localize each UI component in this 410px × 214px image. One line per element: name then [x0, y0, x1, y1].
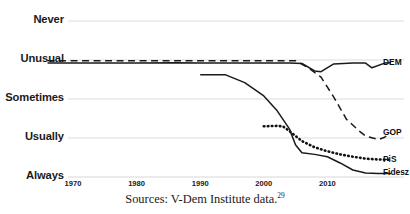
- gridlines-group: [68, 21, 404, 177]
- x-tick-label-1990: 1990: [180, 179, 220, 188]
- series-line-gop: [48, 61, 391, 140]
- caption-text: Sources: V-Dem Institute data.: [125, 192, 277, 206]
- caption-note-marker: 29: [277, 191, 284, 200]
- series-label-gop: GOP: [383, 127, 402, 137]
- series-label-pis: PiS: [383, 154, 397, 164]
- series-line-pis: [264, 126, 391, 160]
- series-label-dem: DEM: [383, 57, 402, 67]
- x-tick-label-2010: 2010: [307, 179, 347, 188]
- y-tick-label-sometimes: Sometimes: [5, 91, 64, 103]
- series-line-fidesz: [200, 75, 391, 174]
- chart-figure: NeverUnusualSometimesUsuallyAlways 19701…: [0, 0, 410, 214]
- x-tick-label-1970: 1970: [53, 179, 93, 188]
- y-tick-label-usually: Usually: [25, 130, 64, 142]
- y-tick-label-never: Never: [33, 13, 64, 25]
- x-tick-label-1980: 1980: [117, 179, 157, 188]
- figure-caption: Sources: V-Dem Institute data.29: [0, 192, 410, 207]
- series-group: [48, 61, 391, 174]
- series-line-dem: [48, 63, 391, 72]
- series-label-fidesz: Fidesz: [383, 167, 409, 177]
- y-tick-label-unusual: Unusual: [21, 52, 64, 64]
- x-tick-label-2000: 2000: [244, 179, 284, 188]
